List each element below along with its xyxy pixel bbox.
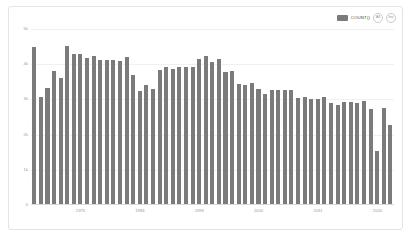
bar-slot[interactable] — [84, 29, 91, 205]
bar[interactable] — [164, 67, 168, 205]
bar-slot[interactable] — [163, 29, 170, 205]
bar-slot[interactable] — [301, 29, 308, 205]
bar[interactable] — [59, 78, 63, 205]
bar-slot[interactable] — [150, 29, 157, 205]
bar[interactable] — [256, 89, 260, 205]
bar-slot[interactable] — [31, 29, 38, 205]
bar-slot[interactable] — [130, 29, 137, 205]
bar-slot[interactable] — [235, 29, 242, 205]
bar[interactable] — [78, 54, 82, 205]
bar[interactable] — [375, 151, 379, 205]
bar[interactable] — [270, 90, 274, 205]
bar-slot[interactable] — [137, 29, 144, 205]
bar-slot[interactable] — [288, 29, 295, 205]
bar[interactable] — [72, 54, 76, 205]
bar-slot[interactable] — [110, 29, 117, 205]
bar-slot[interactable] — [242, 29, 249, 205]
bar-slot[interactable] — [189, 29, 196, 205]
bar-slot[interactable] — [156, 29, 163, 205]
bar[interactable] — [362, 101, 366, 205]
bar[interactable] — [158, 70, 162, 205]
bar-slot[interactable] — [176, 29, 183, 205]
bar[interactable] — [45, 88, 49, 205]
bar[interactable] — [204, 56, 208, 205]
bar[interactable] — [369, 109, 373, 205]
bar[interactable] — [329, 103, 333, 205]
bar-slot[interactable] — [387, 29, 394, 205]
bar[interactable] — [276, 90, 280, 205]
bar[interactable] — [250, 83, 254, 205]
bar[interactable] — [171, 69, 175, 205]
bar-slot[interactable] — [354, 29, 361, 205]
bar-slot[interactable] — [44, 29, 51, 205]
bar[interactable] — [210, 62, 214, 205]
bar[interactable] — [309, 99, 313, 205]
bar[interactable] — [144, 85, 148, 205]
bar[interactable] — [322, 97, 326, 205]
bar[interactable] — [85, 58, 89, 205]
bar-slot[interactable] — [275, 29, 282, 205]
bar[interactable] — [111, 60, 115, 205]
bar-slot[interactable] — [209, 29, 216, 205]
bar[interactable] — [289, 90, 293, 205]
bar[interactable] — [92, 56, 96, 205]
bar[interactable] — [217, 59, 221, 205]
bar-slot[interactable] — [57, 29, 64, 205]
bar-slot[interactable] — [328, 29, 335, 205]
bar[interactable] — [65, 46, 69, 205]
bar-slot[interactable] — [38, 29, 45, 205]
bar[interactable] — [349, 102, 353, 205]
bar-slot[interactable] — [308, 29, 315, 205]
bar[interactable] — [223, 72, 227, 205]
bar-slot[interactable] — [143, 29, 150, 205]
bar-slot[interactable] — [104, 29, 111, 205]
bar[interactable] — [52, 71, 56, 205]
bar[interactable] — [125, 57, 129, 205]
all-toggle-button[interactable]: All — [373, 13, 383, 23]
bar[interactable] — [263, 94, 267, 205]
bar-slot[interactable] — [374, 29, 381, 205]
bar-slot[interactable] — [295, 29, 302, 205]
bar[interactable] — [355, 103, 359, 205]
bar[interactable] — [237, 84, 241, 205]
bar-slot[interactable] — [202, 29, 209, 205]
bar-slot[interactable] — [282, 29, 289, 205]
bar[interactable] — [131, 75, 135, 205]
bar[interactable] — [39, 97, 43, 205]
bar[interactable] — [151, 89, 155, 205]
bar-slot[interactable] — [341, 29, 348, 205]
bar[interactable] — [342, 102, 346, 205]
bar[interactable] — [296, 98, 300, 205]
bar-slot[interactable] — [268, 29, 275, 205]
bar-slot[interactable] — [380, 29, 387, 205]
bar[interactable] — [138, 91, 142, 205]
bar-slot[interactable] — [183, 29, 190, 205]
bar-slot[interactable] — [262, 29, 269, 205]
bar-slot[interactable] — [367, 29, 374, 205]
bar[interactable] — [303, 97, 307, 205]
bar-slot[interactable] — [123, 29, 130, 205]
bar[interactable] — [388, 125, 392, 205]
bar-slot[interactable] — [51, 29, 58, 205]
bar-slot[interactable] — [196, 29, 203, 205]
bar-slot[interactable] — [77, 29, 84, 205]
bar[interactable] — [98, 60, 102, 205]
bar-slot[interactable] — [169, 29, 176, 205]
bar[interactable] — [243, 85, 247, 205]
bar[interactable] — [283, 90, 287, 205]
bar-slot[interactable] — [361, 29, 368, 205]
bar-slot[interactable] — [321, 29, 328, 205]
bar[interactable] — [230, 71, 234, 205]
bar[interactable] — [32, 47, 36, 205]
bar[interactable] — [177, 67, 181, 205]
bar-slot[interactable] — [71, 29, 78, 205]
bar[interactable] — [118, 61, 122, 205]
bar-slot[interactable] — [64, 29, 71, 205]
bar-slot[interactable] — [249, 29, 256, 205]
bar-slot[interactable] — [334, 29, 341, 205]
bar[interactable] — [197, 59, 201, 205]
bar-slot[interactable] — [229, 29, 236, 205]
bar-slot[interactable] — [90, 29, 97, 205]
bar[interactable] — [191, 67, 195, 205]
bar[interactable] — [336, 105, 340, 205]
